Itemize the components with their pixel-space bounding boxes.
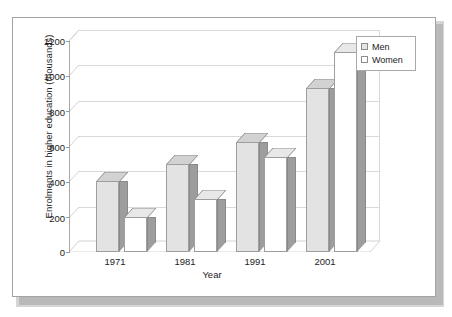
- bar-women-1971[interactable]: [124, 217, 147, 252]
- x-axis-title: Year: [72, 269, 352, 280]
- bar-chart: Enrolments in higher education (thousand…: [12, 17, 436, 297]
- bar-side-face: [287, 157, 296, 252]
- plot-area: 0 200 400 600 800 1000: [69, 30, 380, 252]
- x-tick-label-2001: 2001: [295, 256, 355, 267]
- y-tick-label-800: 800: [49, 106, 65, 117]
- bar-women-1981[interactable]: [194, 199, 217, 252]
- y-axis-title: Enrolments in higher education (thousand…: [43, 27, 54, 227]
- y-tick-label-400: 400: [49, 177, 65, 188]
- y-tick-label-600: 600: [49, 142, 65, 153]
- legend-item-men[interactable]: Men: [361, 40, 411, 53]
- x-tick-label-1991: 1991: [225, 256, 285, 267]
- screenshot-root: Enrolments in higher education (thousand…: [0, 0, 452, 317]
- bar-front-face: [124, 217, 147, 252]
- legend-label-women: Women: [372, 55, 403, 65]
- y-tick-label-0: 0: [60, 247, 65, 258]
- bar-front-face: [96, 181, 119, 252]
- women-swatch-icon: [361, 56, 368, 63]
- bar-men-1981[interactable]: [166, 164, 189, 252]
- chart-legend: Men Women: [356, 36, 416, 71]
- bar-front-face: [194, 199, 217, 252]
- bar-front-face: [166, 164, 189, 252]
- bar-men-1991[interactable]: [236, 142, 259, 252]
- bar-side-face: [217, 199, 226, 252]
- bar-front-face: [334, 52, 357, 252]
- men-swatch-icon: [361, 43, 368, 50]
- x-tick-label-1981: 1981: [155, 256, 215, 267]
- bar-series-layer: [69, 30, 380, 252]
- legend-label-men: Men: [372, 42, 390, 52]
- bar-front-face: [306, 88, 329, 252]
- bar-front-face: [264, 157, 287, 252]
- bar-men-2001[interactable]: [306, 88, 329, 252]
- bar-women-1991[interactable]: [264, 157, 287, 252]
- y-tick-label-1000: 1000: [44, 71, 65, 82]
- legend-item-women[interactable]: Women: [361, 53, 411, 66]
- y-tick-label-200: 200: [49, 212, 65, 223]
- bar-men-1971[interactable]: [96, 181, 119, 252]
- x-tick-label-1971: 1971: [85, 256, 145, 267]
- bar-side-face: [147, 217, 156, 252]
- bar-side-face: [357, 52, 366, 252]
- bar-women-2001[interactable]: [334, 52, 357, 252]
- y-tick-label-1200: 1200: [44, 36, 65, 47]
- bar-front-face: [236, 142, 259, 252]
